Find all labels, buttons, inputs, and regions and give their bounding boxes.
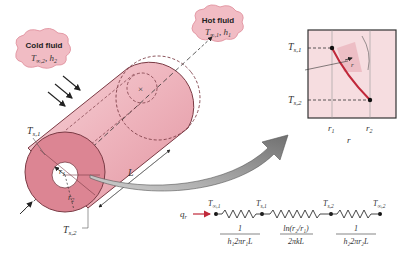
x-axis-label: r bbox=[347, 135, 351, 145]
hot-fluid-label: Hot fluid T∞,1, h1 bbox=[192, 5, 243, 42]
svg-text:T∞,2, h2: T∞,2, h2 bbox=[31, 53, 57, 64]
svg-text:T∞,1, h1: T∞,1, h1 bbox=[205, 27, 231, 38]
x-tick-r2: r2 bbox=[366, 123, 373, 134]
svg-text:Ts,1: Ts,1 bbox=[256, 199, 267, 209]
svg-text:h₁2πr₁L: h₁2πr₁L bbox=[227, 237, 253, 246]
svg-text:Hot fluid: Hot fluid bbox=[202, 16, 235, 25]
surface-temp-outer-label: Ts,2 bbox=[63, 224, 77, 237]
thermal-resistance-circuit: qr T∞,1 Ts,1 Ts,2 T∞,2 1 h₁2πr₁L ln(r₂/r… bbox=[180, 199, 386, 246]
svg-text:1: 1 bbox=[354, 224, 358, 233]
surface-temp-inner-label: Ts,1 bbox=[27, 125, 41, 138]
length-label: L bbox=[127, 167, 134, 178]
svg-text:r: r bbox=[351, 61, 354, 69]
svg-text:2πkL: 2πkL bbox=[288, 237, 305, 246]
cold-flow-arrows-icon bbox=[48, 76, 80, 106]
svg-text:T∞,1: T∞,1 bbox=[208, 199, 221, 209]
svg-text:h₂2πr₂L: h₂2πr₂L bbox=[343, 237, 369, 246]
svg-text:T∞,2: T∞,2 bbox=[373, 199, 386, 209]
svg-text:ln(r₂/r₁): ln(r₂/r₁) bbox=[283, 224, 309, 233]
y-tick-ts2: Ts,2 bbox=[288, 94, 302, 107]
heat-rate-label: qr bbox=[180, 209, 188, 220]
y-tick-ts1: Ts,1 bbox=[288, 41, 302, 54]
heat-conduction-diagram: Cold fluid T∞,2, h2 Hot fluid T∞,1, h1 × bbox=[0, 0, 406, 261]
x-tick-r1: r1 bbox=[328, 123, 335, 134]
cold-fluid-label: Cold fluid T∞,2, h2 bbox=[16, 28, 71, 68]
temperature-profile-plot: r Ts,1 Ts,2 r1 r2 r bbox=[288, 30, 396, 145]
svg-text:Ts,2: Ts,2 bbox=[323, 199, 334, 209]
svg-text:1: 1 bbox=[238, 224, 242, 233]
center-mark: × bbox=[138, 84, 143, 94]
svg-text:Cold fluid: Cold fluid bbox=[26, 41, 63, 50]
